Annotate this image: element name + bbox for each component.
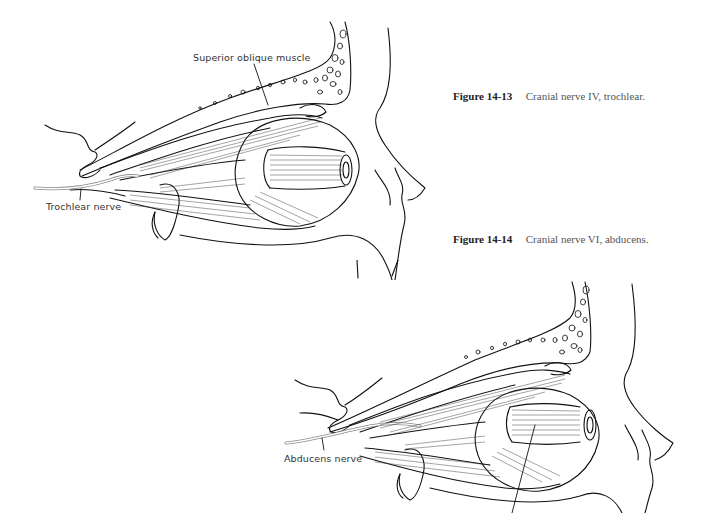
figure-number: Figure 14-13 bbox=[453, 90, 523, 102]
figure-caption-text: Cranial nerve IV, trochlear. bbox=[526, 90, 645, 102]
abducens-nerve-label: Abducens nerve bbox=[284, 453, 362, 464]
figure-number: Figure 14-14 bbox=[453, 233, 523, 245]
figure-14-14-caption: Figure 14-14 Cranial nerve VI, abducens. bbox=[453, 233, 649, 245]
trochlear-nerve-label: Trochlear nerve bbox=[46, 201, 121, 212]
figure-14-13-caption: Figure 14-13 Cranial nerve IV, trochlear… bbox=[453, 90, 645, 102]
figure-caption-text: Cranial nerve VI, abducens. bbox=[526, 233, 649, 245]
eye-orbit-abducens-drawing bbox=[280, 260, 703, 513]
figure-14-13-illustration bbox=[0, 0, 440, 280]
eye-orbit-trochlear-drawing bbox=[0, 0, 440, 280]
figure-14-14-illustration bbox=[280, 260, 703, 513]
superior-oblique-muscle-label: Superior oblique muscle bbox=[193, 52, 310, 63]
